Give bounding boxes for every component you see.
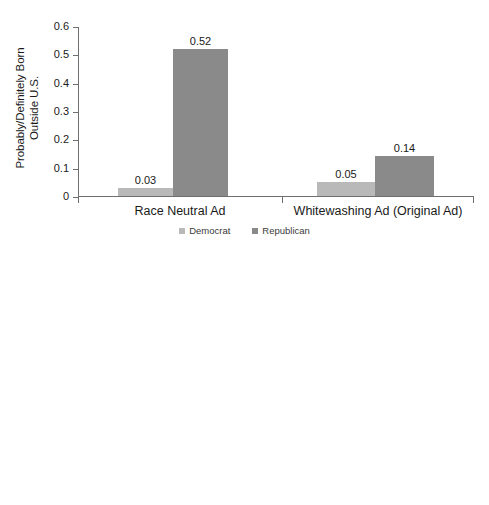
x-tick-left-edge — [78, 197, 79, 203]
y-tick-6: 0.6 — [73, 27, 78, 28]
legend-swatch-republican-icon — [252, 228, 258, 234]
chart-page: Probably/Definitely Born Outside U.S. 0 … — [0, 0, 489, 505]
bar-whitewashing-democrat: 0.05 — [317, 182, 375, 196]
plot-area-born-outside-us: 0 0.1 0.2 0.3 0.4 0.5 0.6 — [78, 27, 474, 197]
legend-item-republican: Republican — [252, 225, 310, 236]
x-tick-group-separator — [282, 197, 283, 203]
y-tick-3: 0.3 — [73, 112, 78, 113]
x-axis-line — [78, 196, 474, 197]
category-label-race-neutral: Race Neutral Ad — [78, 204, 282, 218]
y-tick-5: 0.5 — [73, 55, 78, 56]
legend-born-outside-us: Democrat Republican — [0, 225, 489, 236]
bar-whitewashing-republican: 0.14 — [375, 156, 434, 196]
bar-race-neutral-democrat: 0.03 — [118, 188, 173, 197]
y-axis-title: Probably/Definitely Born Outside U.S. — [14, 18, 41, 198]
bar-race-neutral-republican: 0.52 — [173, 49, 228, 196]
legend-label-republican: Republican — [262, 225, 310, 236]
chart-panel-born-outside-us: Probably/Definitely Born Outside U.S. 0 … — [0, 0, 489, 253]
y-tick-1: 0.1 — [73, 169, 78, 170]
y-tick-2: 0.2 — [73, 140, 78, 141]
category-label-whitewashing: Whitewashing Ad (Original Ad) — [282, 204, 474, 218]
legend-item-democrat: Democrat — [179, 225, 230, 236]
legend-label-democrat: Democrat — [189, 225, 230, 236]
legend-swatch-democrat-icon — [179, 228, 185, 234]
chart-panel-obama-muslim: Probably that Obama is a Muslim 0 0.1 0.… — [0, 253, 489, 505]
x-tick-right-edge — [473, 197, 474, 203]
y-axis-line — [78, 27, 79, 197]
y-tick-4: 0.4 — [73, 84, 78, 85]
